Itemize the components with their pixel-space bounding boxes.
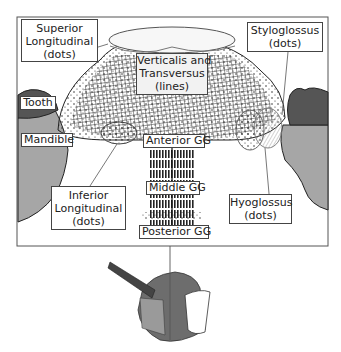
label-posterior-gg: Posterior GG — [139, 225, 209, 239]
inferior-longitudinal-ellipse — [101, 122, 137, 144]
label-tooth: Tooth — [20, 96, 56, 110]
label-styloglossus: Styloglossus (dots) — [247, 22, 323, 52]
label-mandible: Mandible — [21, 133, 73, 147]
label-line: (dots) — [230, 209, 291, 222]
label-line: (dots) — [52, 215, 125, 228]
label-hyoglossus: Hyoglossus (dots) — [229, 194, 292, 224]
label-line: Verticalis and — [137, 54, 207, 67]
right-tooth-shape — [288, 88, 329, 125]
label-line: Styloglossus — [248, 24, 322, 37]
label-superior-longitudinal: Superior Longitudinal (dots) — [21, 19, 98, 62]
label-inferior-longitudinal: Inferior Longitudinal (dots) — [51, 186, 126, 230]
label-line: (dots) — [22, 48, 97, 61]
tongue-dorsum — [109, 27, 235, 53]
label-line: Transversus — [137, 67, 207, 80]
label-line: Longitudinal — [52, 202, 125, 215]
label-anterior-gg: Anterior GG — [143, 134, 205, 148]
styloglossus-ellipse — [254, 108, 282, 148]
label-line: Hyoglossus — [230, 196, 291, 209]
label-line: (lines) — [137, 80, 207, 93]
label-line: (dots) — [248, 37, 322, 50]
label-verticalis-transversus: Verticalis and Transversus (lines) — [136, 53, 208, 95]
label-line: Superior — [22, 22, 97, 35]
label-line: Longitudinal — [22, 35, 97, 48]
label-line: Inferior — [52, 189, 125, 202]
inset-tongue-3d-model — [108, 262, 210, 341]
label-middle-gg: Middle GG — [146, 181, 200, 195]
